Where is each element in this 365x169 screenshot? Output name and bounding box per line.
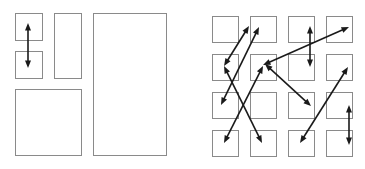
block-large-square (16, 90, 82, 156)
grid-cell-r2c4 (327, 55, 353, 81)
block-tall-narrow-rect (55, 14, 82, 79)
grid-cell-r4c1 (213, 131, 239, 157)
left-panel-canvas (0, 0, 183, 169)
panel-uniform-grid-layout (183, 0, 365, 169)
grid-cell-r1c4 (327, 17, 353, 43)
grid-cell-r1c2 (251, 17, 277, 43)
arrow-r2c1-to-r1c2-head-end (242, 26, 249, 34)
diagram-figure (0, 0, 365, 169)
grid-cell-r4c3 (289, 131, 315, 157)
grid-cell-r4c2 (251, 131, 277, 157)
grid-cell-r2c2 (251, 55, 277, 81)
right-panel-canvas (183, 0, 365, 169)
grid-cell-r3c2 (251, 93, 277, 119)
panel-irregular-block-layout (0, 0, 183, 169)
grid-cell-r1c1 (213, 17, 239, 43)
block-full-height-rect (94, 14, 167, 156)
